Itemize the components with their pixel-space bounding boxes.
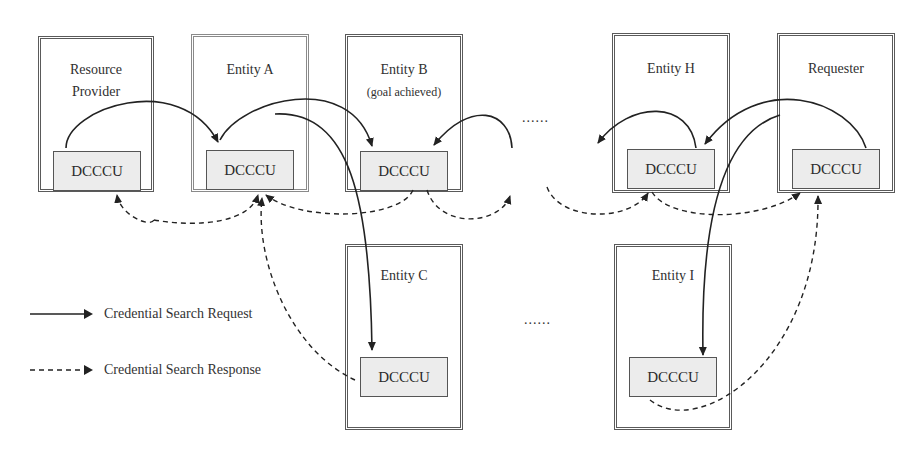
dashed-arrow-icon bbox=[30, 364, 94, 376]
entity-h: Entity H DCCCU bbox=[612, 33, 730, 193]
dcccu-module: DCCCU bbox=[629, 357, 717, 397]
legend-response-label: Credential Search Response bbox=[104, 362, 261, 378]
dcccu-module: DCCCU bbox=[53, 151, 141, 191]
entity-sublabel: (goal achieved) bbox=[348, 81, 460, 103]
entity-label: Entity B bbox=[348, 59, 460, 81]
legend-request-label: Credential Search Request bbox=[104, 306, 253, 322]
entity-i: Entity I DCCCU bbox=[614, 244, 732, 430]
entity-label: Entity H bbox=[615, 58, 727, 80]
ellipsis-top: ...... bbox=[522, 110, 549, 126]
entity-a: Entity A DCCCU bbox=[191, 34, 309, 192]
legend-request: Credential Search Request bbox=[30, 306, 253, 322]
legend-response: Credential Search Response bbox=[30, 362, 261, 378]
entity-label: Entity C bbox=[348, 265, 460, 287]
entity-label: Entity I bbox=[617, 265, 729, 287]
ellipsis-bottom: ...... bbox=[524, 312, 551, 328]
solid-arrow-icon bbox=[30, 308, 94, 320]
dcccu-module: DCCCU bbox=[627, 149, 715, 189]
dcccu-module: DCCCU bbox=[360, 151, 448, 191]
entity-resource-provider: Resource Provider DCCCU bbox=[38, 36, 154, 192]
dcccu-module: DCCCU bbox=[792, 149, 880, 189]
entity-b: Entity B (goal achieved) DCCCU bbox=[345, 34, 463, 192]
dcccu-module: DCCCU bbox=[206, 150, 294, 190]
entity-c: Entity C DCCCU bbox=[345, 244, 463, 430]
entity-label: Requester bbox=[780, 58, 892, 80]
entity-label: Provider bbox=[41, 81, 151, 103]
entity-requester: Requester DCCCU bbox=[777, 33, 895, 193]
dcccu-module: DCCCU bbox=[360, 357, 448, 397]
entity-label: Entity A bbox=[194, 59, 306, 81]
entity-label: Resource bbox=[41, 59, 151, 81]
